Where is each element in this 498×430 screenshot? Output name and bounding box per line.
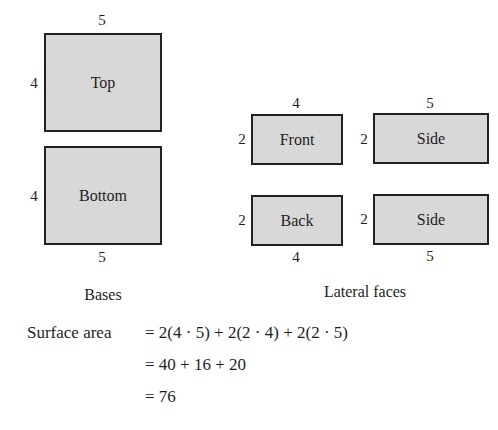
front-height-label: 2 <box>236 131 248 147</box>
back-width-label: 4 <box>286 249 306 265</box>
bases-caption: Bases <box>63 286 143 304</box>
side-top-face: Side <box>373 113 489 164</box>
side-bottom-height-label: 2 <box>358 211 370 227</box>
top-face-label: Top <box>91 74 116 92</box>
side-top-face-label: Side <box>417 130 445 148</box>
top-width-label: 5 <box>92 12 112 28</box>
side-bottom-face-label: Side <box>417 211 445 229</box>
bottom-face-label: Bottom <box>79 187 127 205</box>
side-bottom-face: Side <box>373 194 489 245</box>
side-bottom-width-label: 5 <box>420 248 440 264</box>
front-face-label: Front <box>280 131 315 149</box>
bottom-width-label: 5 <box>92 249 112 265</box>
top-face: Top <box>44 33 162 132</box>
back-face: Back <box>251 195 343 246</box>
front-width-label: 4 <box>286 95 306 111</box>
equation-line-3: = 76 <box>145 387 176 407</box>
front-face: Front <box>251 114 343 165</box>
side-top-width-label: 5 <box>420 95 440 111</box>
bottom-face: Bottom <box>44 146 162 245</box>
side-top-height-label: 2 <box>358 131 370 147</box>
top-height-label: 4 <box>28 75 40 91</box>
lateral-faces-caption: Lateral faces <box>300 283 430 301</box>
equation-line-2: = 40 + 16 + 20 <box>145 355 246 375</box>
back-face-label: Back <box>281 212 314 230</box>
bottom-height-label: 4 <box>28 188 40 204</box>
back-height-label: 2 <box>236 212 248 228</box>
equation-line-1: = 2(4 · 5) + 2(2 · 4) + 2(2 · 5) <box>145 323 348 343</box>
equation-lhs: Surface area <box>27 323 111 343</box>
